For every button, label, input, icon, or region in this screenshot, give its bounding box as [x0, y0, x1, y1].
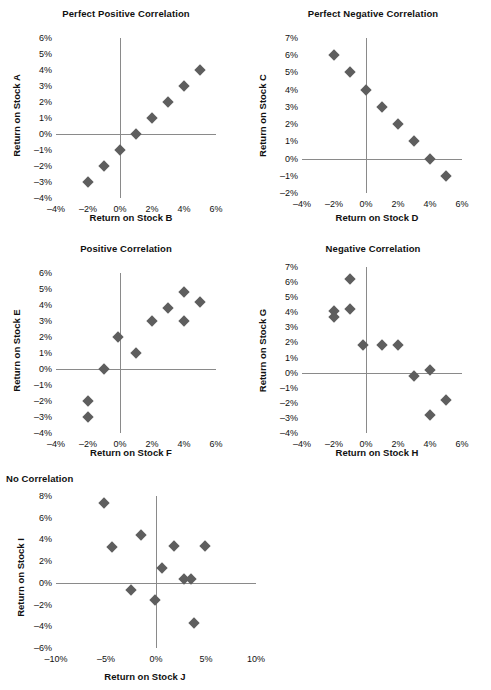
- x-tick-label: 2%: [135, 439, 169, 449]
- y-tick-label: –4%: [10, 193, 52, 203]
- x-tick-label: –2%: [71, 439, 105, 449]
- x-tick-label: 6%: [199, 439, 233, 449]
- plot-area: [302, 267, 462, 433]
- data-point-marker: [178, 80, 189, 91]
- data-point-marker: [178, 287, 189, 298]
- y-tick-label: 3%: [256, 322, 298, 332]
- y-tick-label: –6%: [10, 643, 52, 653]
- x-tick-label: 2%: [381, 439, 415, 449]
- data-point-marker: [162, 303, 173, 314]
- panel-no-correlation: No Correlation Return on Stock I Return …: [0, 468, 300, 690]
- x-tick-label: –4%: [285, 439, 319, 449]
- x-axis-zero-line: [302, 159, 462, 160]
- y-axis-zero-line: [120, 273, 121, 433]
- y-tick-label: 2%: [256, 337, 298, 347]
- y-tick-label: –4%: [10, 621, 52, 631]
- x-tick-label: 0%: [103, 204, 137, 214]
- y-tick-label: 1%: [256, 353, 298, 363]
- data-point-marker: [146, 112, 157, 123]
- x-axis-zero-line: [302, 373, 462, 374]
- data-point-marker: [130, 347, 141, 358]
- y-tick-label: –4%: [256, 428, 298, 438]
- y-tick-label: 3%: [10, 316, 52, 326]
- y-tick-label: 7%: [256, 262, 298, 272]
- data-point-marker: [392, 118, 403, 129]
- panel-title: Positive Correlation: [26, 243, 226, 255]
- data-point-marker: [344, 304, 355, 315]
- x-tick-label: –2%: [317, 199, 351, 209]
- y-axis-zero-line: [120, 38, 121, 198]
- y-tick-label: 5%: [10, 284, 52, 294]
- data-point-marker: [424, 153, 435, 164]
- y-tick-label: 1%: [10, 348, 52, 358]
- x-tick-label: 6%: [199, 204, 233, 214]
- data-point-marker: [98, 160, 109, 171]
- data-point-marker: [106, 541, 117, 552]
- plot-area: [56, 38, 216, 198]
- panel-perfect-positive-correlation: Perfect Positive Correlation Return on S…: [0, 0, 245, 232]
- x-tick-label: 0%: [349, 199, 383, 209]
- data-point-marker: [376, 340, 387, 351]
- plot-area: [302, 38, 462, 193]
- y-tick-label: 6%: [10, 33, 52, 43]
- y-tick-label: –3%: [10, 412, 52, 422]
- data-point-marker: [408, 136, 419, 147]
- y-tick-label: 0%: [256, 368, 298, 378]
- y-axis-title: Return on Stock C: [257, 66, 268, 166]
- y-tick-label: –2%: [10, 161, 52, 171]
- panel-title: Negative Correlation: [268, 243, 478, 255]
- panel-title: Perfect Positive Correlation: [26, 8, 226, 20]
- y-tick-label: 0%: [10, 129, 52, 139]
- y-tick-label: 4%: [10, 65, 52, 75]
- y-tick-label: 6%: [256, 50, 298, 60]
- x-tick-label: –4%: [39, 439, 73, 449]
- plot-area: [56, 496, 256, 648]
- x-axis-zero-line: [56, 369, 216, 370]
- panel-title: Perfect Negative Correlation: [268, 8, 478, 20]
- data-point-marker: [113, 331, 124, 342]
- data-point-marker: [82, 411, 93, 422]
- data-point-marker: [82, 176, 93, 187]
- y-tick-label: 3%: [10, 81, 52, 91]
- data-point-marker: [146, 315, 157, 326]
- y-tick-label: 5%: [10, 49, 52, 59]
- y-tick-label: 2%: [10, 97, 52, 107]
- data-point-marker: [188, 617, 199, 628]
- y-axis-zero-line: [366, 38, 367, 193]
- y-tick-label: 4%: [256, 85, 298, 95]
- data-point-marker: [178, 315, 189, 326]
- x-tick-label: 4%: [167, 439, 201, 449]
- y-tick-label: 6%: [10, 513, 52, 523]
- y-axis-zero-line: [156, 496, 157, 648]
- x-tick-label: 6%: [445, 439, 479, 449]
- plot-area: [56, 273, 216, 433]
- x-tick-label: 2%: [135, 204, 169, 214]
- x-tick-label: 0%: [139, 654, 173, 664]
- panel-negative-correlation: Negative Correlation Return on Stock G R…: [246, 235, 491, 467]
- x-axis-title: Return on Stock D: [302, 212, 452, 223]
- data-point-marker: [194, 296, 205, 307]
- data-point-marker: [156, 562, 167, 573]
- data-point-marker: [149, 595, 160, 606]
- y-tick-label: 4%: [10, 300, 52, 310]
- x-tick-label: –10%: [39, 654, 73, 664]
- x-tick-label: 2%: [381, 199, 415, 209]
- panel-perfect-negative-correlation: Perfect Negative Correlation Return on S…: [246, 0, 491, 232]
- y-tick-label: –2%: [10, 600, 52, 610]
- y-tick-label: –2%: [10, 396, 52, 406]
- x-tick-label: 0%: [103, 439, 137, 449]
- y-tick-label: –3%: [10, 177, 52, 187]
- x-tick-label: –5%: [89, 654, 123, 664]
- data-point-marker: [440, 170, 451, 181]
- y-tick-label: 4%: [256, 307, 298, 317]
- y-tick-label: 1%: [10, 113, 52, 123]
- x-tick-label: 10%: [239, 654, 273, 664]
- x-tick-label: 0%: [349, 439, 383, 449]
- data-point-marker: [162, 96, 173, 107]
- data-point-marker: [135, 529, 146, 540]
- data-point-marker: [98, 497, 109, 508]
- y-tick-label: 4%: [10, 534, 52, 544]
- x-tick-label: 4%: [413, 439, 447, 449]
- y-tick-label: –1%: [256, 383, 298, 393]
- data-point-marker: [392, 340, 403, 351]
